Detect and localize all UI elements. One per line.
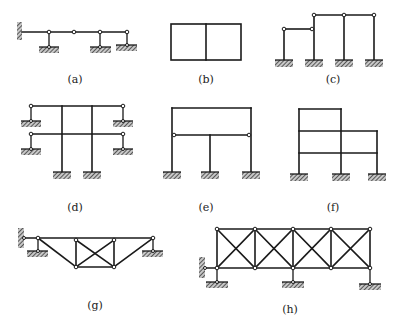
panel-b: (b) bbox=[171, 24, 241, 86]
ground-support bbox=[242, 172, 260, 179]
panel-c: (c) bbox=[275, 13, 383, 86]
ground-support bbox=[365, 60, 383, 67]
panel-h: (h) bbox=[199, 227, 381, 316]
ground-support bbox=[275, 60, 293, 67]
ground-support bbox=[332, 174, 350, 181]
panel-e: (e) bbox=[163, 108, 260, 214]
panel-label: (c) bbox=[326, 73, 341, 86]
ground-support bbox=[335, 60, 353, 67]
panel-label: (f) bbox=[327, 201, 340, 214]
ground-support bbox=[53, 172, 71, 179]
panel-a: (a) bbox=[17, 22, 137, 86]
ground-support bbox=[163, 172, 181, 179]
ground-support bbox=[201, 172, 219, 179]
panel-label: (e) bbox=[198, 201, 213, 214]
ground-support bbox=[368, 174, 386, 181]
ground-support bbox=[290, 174, 308, 181]
panel-d: (d) bbox=[21, 104, 133, 214]
panel-label: (b) bbox=[198, 73, 214, 86]
panel-label: (d) bbox=[67, 201, 83, 214]
ground-support bbox=[83, 172, 101, 179]
panel-label: (a) bbox=[67, 73, 82, 86]
structural-diagrams: (a) (b) (c) bbox=[0, 0, 402, 329]
panel-f: (f) bbox=[290, 109, 386, 214]
fixed-wall bbox=[17, 22, 22, 40]
ground-support bbox=[305, 60, 323, 67]
panel-g: (g) bbox=[18, 228, 163, 312]
panel-label: (g) bbox=[87, 299, 103, 312]
panel-label: (h) bbox=[282, 303, 298, 316]
